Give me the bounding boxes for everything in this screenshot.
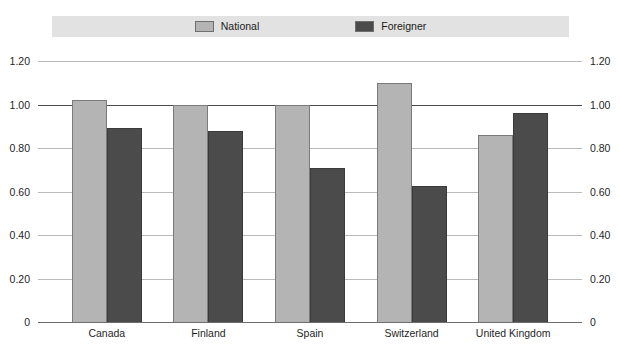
y-axis-tick-label: 0.20 xyxy=(590,273,610,285)
y-axis-tick-label: 1.00 xyxy=(10,99,30,111)
y-axis-tick-label: 0 xyxy=(590,316,596,328)
y-axis-tick xyxy=(38,279,56,280)
bar-national xyxy=(173,105,208,323)
y-axis-tick xyxy=(564,235,582,236)
y-axis-tick-label: 0 xyxy=(24,316,30,328)
x-axis-labels: CanadaFinlandSpainSwitzerlandUnited King… xyxy=(56,327,564,339)
legend-swatch-national xyxy=(195,21,214,32)
x-axis-category-label: United Kingdom xyxy=(462,327,564,339)
y-axis-tick-label: 0.60 xyxy=(10,186,30,198)
bar-foreigner xyxy=(412,186,447,322)
y-axis-tick xyxy=(564,322,582,323)
bar-group xyxy=(56,61,158,322)
y-axis-tick-label: 0.80 xyxy=(590,142,610,154)
y-axis-tick xyxy=(38,192,56,193)
bar-group xyxy=(158,61,260,322)
bar-groups xyxy=(56,61,564,322)
gridline xyxy=(56,322,564,323)
x-axis-category-label: Finland xyxy=(158,327,260,339)
bar-foreigner xyxy=(208,131,243,322)
bar-national xyxy=(478,135,513,322)
y-axis-tick xyxy=(38,148,56,149)
y-axis-tick-label: 1.20 xyxy=(590,55,610,67)
bar-group xyxy=(259,61,361,322)
legend-swatch-foreigner xyxy=(355,21,374,32)
chart-legend: National Foreigner xyxy=(52,16,569,37)
x-axis-category-label: Canada xyxy=(56,327,158,339)
legend-entry-foreigner: Foreigner xyxy=(355,21,426,32)
bar-national xyxy=(377,83,412,322)
y-axis-tick xyxy=(564,148,582,149)
y-axis-tick-label: 1.20 xyxy=(10,55,30,67)
y-axis-tick xyxy=(564,61,582,62)
bar-foreigner xyxy=(513,113,548,322)
y-axis-tick xyxy=(564,192,582,193)
legend-label-national: National xyxy=(221,21,260,32)
bar-chart: National Foreigner 1.201.000.800.600.400… xyxy=(0,0,620,355)
legend-label-foreigner: Foreigner xyxy=(381,21,426,32)
y-axis-tick xyxy=(38,322,56,323)
y-axis-tick xyxy=(38,61,56,62)
y-axis-tick xyxy=(564,105,582,106)
legend-entry-national: National xyxy=(195,21,260,32)
bar-foreigner xyxy=(310,168,345,322)
bar-group xyxy=(462,61,564,322)
y-axis-tick xyxy=(38,235,56,236)
y-axis-tick xyxy=(38,105,56,106)
y-axis-tick-label: 0.20 xyxy=(10,273,30,285)
bar-group xyxy=(361,61,463,322)
plot-area: 1.201.000.800.600.400.200 1.201.000.800.… xyxy=(56,61,564,322)
y-axis-tick-label: 0.40 xyxy=(590,229,610,241)
y-axis-tick-label: 0.80 xyxy=(10,142,30,154)
y-axis-tick-label: 0.40 xyxy=(10,229,30,241)
bar-foreigner xyxy=(107,128,142,322)
y-axis-tick-label: 1.00 xyxy=(590,99,610,111)
y-axis-tick xyxy=(564,279,582,280)
y-axis-tick-label: 0.60 xyxy=(590,186,610,198)
x-axis-category-label: Spain xyxy=(259,327,361,339)
bar-national xyxy=(275,105,310,323)
bar-national xyxy=(72,100,107,322)
x-axis-category-label: Switzerland xyxy=(361,327,463,339)
